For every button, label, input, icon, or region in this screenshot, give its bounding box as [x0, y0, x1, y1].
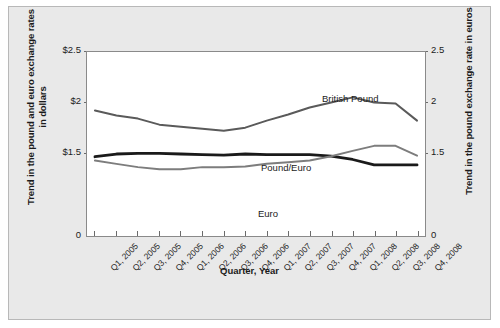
x-tick-mark [202, 231, 203, 236]
y-tick-label: 2 [431, 95, 471, 106]
x-tick-mark [137, 231, 138, 236]
x-tick-mark [245, 231, 246, 236]
x-tick-mark [288, 231, 289, 236]
x-tick-mark [310, 231, 311, 236]
x-tick-mark [94, 231, 95, 236]
x-tick-mark [353, 231, 354, 236]
series-label-pound-euro: Pound/Euro [261, 162, 311, 173]
x-tick-mark [375, 231, 376, 236]
y-tick-label: 1.5 [431, 146, 471, 157]
y-tick-label: $2 [41, 95, 81, 106]
x-tick-mark [224, 231, 225, 236]
series-label-euro: Euro [258, 208, 278, 219]
x-tick-mark [159, 231, 160, 236]
series-label-british-pound: British Pound [322, 93, 379, 104]
series-lines [87, 52, 425, 236]
series-line-pound-euro [95, 153, 417, 164]
x-tick-mark [116, 231, 117, 236]
series-line-euro [95, 146, 417, 169]
chart-figure: Trend in the pound and euro exchange rat… [8, 6, 491, 320]
x-tick-mark [267, 231, 268, 236]
y-tick-label: 2.5 [431, 44, 471, 55]
y-axis-ticks-right: 2.521.50 [431, 7, 471, 328]
y-tick-label: 0 [41, 229, 81, 240]
y-axis-ticks-left: $2.5$2$1.50 [41, 7, 81, 328]
y-tick-label: $1.5 [41, 146, 81, 157]
x-axis-title: Quarter, Year [9, 265, 490, 276]
x-tick-mark [418, 231, 419, 236]
x-tick-mark [180, 231, 181, 236]
x-tick-mark [396, 231, 397, 236]
x-tick-mark [332, 231, 333, 236]
plot-area [86, 51, 426, 237]
y-tick-label: 0 [431, 229, 471, 240]
y-tick-label: $2.5 [41, 44, 81, 55]
